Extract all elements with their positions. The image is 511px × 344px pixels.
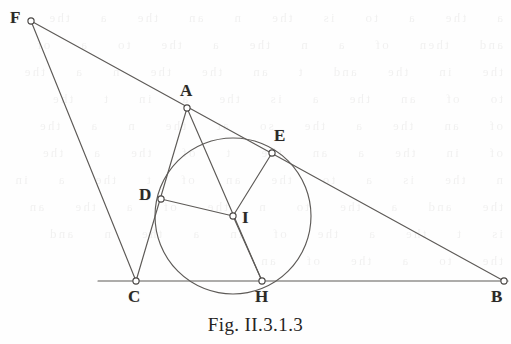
- segment-F-C: [31, 21, 136, 281]
- point-label-c: C: [128, 288, 140, 305]
- vertex-marker-d: [158, 196, 164, 202]
- point-label-i: I: [242, 209, 249, 226]
- segment-F-B: [31, 21, 504, 281]
- vertex-marker-e: [269, 150, 275, 156]
- point-label-a: A: [180, 82, 192, 99]
- point-label-d: D: [139, 186, 151, 203]
- figure-page: a the a to is the n an the a the and the…: [0, 0, 511, 344]
- point-label-b: B: [491, 288, 502, 305]
- point-label-f: F: [10, 9, 20, 26]
- figure-caption: Fig. II.3.1.3: [0, 314, 511, 336]
- vertex-marker-i: [230, 213, 236, 219]
- vertex-marker-b: [501, 278, 507, 284]
- point-label-h: H: [255, 288, 268, 305]
- segment-D-I: [161, 199, 233, 216]
- vertex-marker-c: [133, 278, 139, 284]
- vertex-marker-a: [184, 105, 190, 111]
- vertex-marker-f: [28, 18, 34, 24]
- segment-E-I: [233, 153, 272, 216]
- vertex-marker-h: [259, 278, 265, 284]
- point-label-e: E: [274, 127, 285, 144]
